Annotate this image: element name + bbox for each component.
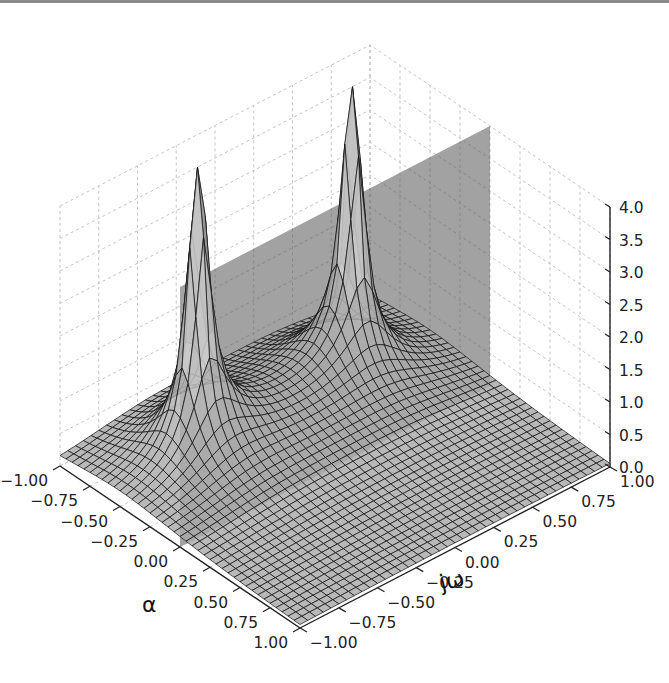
z-tick-label: 2.5	[619, 297, 644, 315]
surface-plot: −1.00−0.75−0.50−0.250.000.250.500.751.00…	[0, 0, 669, 683]
alpha-tick-label: −1.00	[1, 472, 49, 490]
jw-tick-label: −1.00	[310, 634, 358, 652]
alpha-tick-label: −0.25	[91, 533, 139, 551]
jw-tick-label: 0.75	[581, 493, 616, 511]
jw-tick-label: −0.50	[388, 594, 436, 612]
z-axis-ticks: 0.00.51.01.52.02.53.03.54.0	[605, 199, 644, 477]
jw-tick-label: 0.25	[504, 533, 539, 551]
alpha-tick-label: 0.00	[133, 553, 168, 571]
z-tick-label: 1.5	[619, 362, 644, 380]
z-tick-label: 2.0	[619, 329, 644, 347]
z-tick-label: 4.0	[619, 199, 644, 217]
z-tick-label: 3.0	[619, 264, 644, 282]
z-tick-label: 3.5	[619, 232, 644, 250]
alpha-tick-label: −0.50	[61, 513, 109, 531]
alpha-tick-label: 0.75	[223, 614, 258, 632]
z-tick-label: 1.0	[619, 394, 644, 412]
alpha-tick-label: 0.25	[163, 573, 198, 591]
z-tick-label: 0.0	[619, 459, 644, 477]
alpha-tick-label: 1.00	[253, 634, 288, 652]
jw-tick-label: 0.00	[465, 554, 500, 572]
jw-tick-label: −0.75	[349, 614, 397, 632]
jw-tick-label: 0.50	[543, 513, 578, 531]
alpha-tick-label: 0.50	[193, 594, 228, 612]
alpha-axis-label: α	[142, 592, 157, 617]
alpha-tick-label: −0.75	[31, 492, 79, 510]
z-tick-label: 0.5	[619, 427, 644, 445]
